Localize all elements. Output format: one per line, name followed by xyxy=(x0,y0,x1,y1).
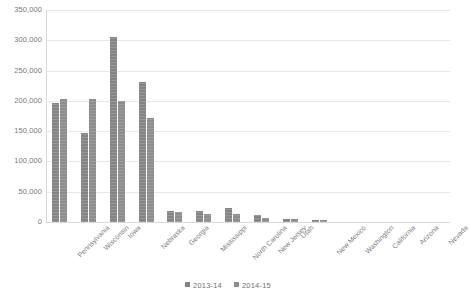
bar[interactable] xyxy=(233,214,240,222)
bar[interactable] xyxy=(175,212,182,222)
x-axis-tick-label: Mississippi xyxy=(219,224,248,253)
bar-group xyxy=(190,10,219,222)
x-axis-labels: PennsylvaniaWisconsinIowaNebraskaGeorgia… xyxy=(46,224,450,276)
bar[interactable] xyxy=(60,99,67,222)
legend-label: 2013-14 xyxy=(193,281,222,290)
bar-group xyxy=(363,10,392,222)
bar[interactable] xyxy=(204,214,211,222)
y-axis-tick-label: 200,000 xyxy=(0,96,42,105)
bar[interactable] xyxy=(320,220,327,222)
x-axis-tick-label: Nevada xyxy=(447,224,469,246)
bar-group xyxy=(75,10,104,222)
x-axis-tick-label: Washington xyxy=(364,224,395,255)
bar-group xyxy=(248,10,277,222)
y-axis-tick-label: 250,000 xyxy=(0,66,42,75)
y-axis-tick-label: 150,000 xyxy=(0,126,42,135)
legend-item[interactable]: 2013-14 xyxy=(185,280,222,290)
bar[interactable] xyxy=(196,211,203,222)
bar-group xyxy=(133,10,162,222)
bar-group xyxy=(306,10,335,222)
bar[interactable] xyxy=(254,215,261,222)
x-axis-tick-label: Arizona xyxy=(418,224,440,246)
y-axis-tick-label: 0 xyxy=(0,217,42,226)
y-axis-tick-label: 50,000 xyxy=(0,187,42,196)
bar-group xyxy=(219,10,248,222)
bar-group xyxy=(392,10,421,222)
bar[interactable] xyxy=(167,211,174,223)
bar[interactable] xyxy=(118,101,125,222)
bar-group xyxy=(161,10,190,222)
x-axis-tick-label: Iowa xyxy=(126,224,141,239)
bar[interactable] xyxy=(110,37,117,222)
legend-swatch-icon xyxy=(185,282,190,287)
y-axis-tick-label: 100,000 xyxy=(0,156,42,165)
legend-item[interactable]: 2014-15 xyxy=(234,280,271,290)
bar-group xyxy=(46,10,75,222)
x-axis-tick-label: New Mexico xyxy=(335,224,367,256)
bar[interactable] xyxy=(89,99,96,222)
x-axis-tick-label: Georgia xyxy=(187,224,210,247)
bar-group xyxy=(277,10,306,222)
bar-group xyxy=(104,10,133,222)
legend-label: 2014-15 xyxy=(242,281,271,290)
bar[interactable] xyxy=(283,219,290,222)
bar[interactable] xyxy=(139,82,146,222)
x-axis-tick-label: North Carolina xyxy=(251,224,288,261)
legend-swatch-icon xyxy=(234,282,239,287)
x-axis-tick-label: Nebraska xyxy=(160,224,186,250)
bar[interactable] xyxy=(262,218,269,222)
chart-legend: 2013-142014-15 xyxy=(0,280,456,290)
bars-layer xyxy=(46,10,450,222)
bar[interactable] xyxy=(225,208,232,222)
bar[interactable] xyxy=(81,133,88,222)
y-axis-labels: 350,000300,000250,000200,000150,000100,0… xyxy=(0,0,42,298)
bar[interactable] xyxy=(52,103,59,222)
bar[interactable] xyxy=(291,219,298,222)
bar-group xyxy=(421,10,450,222)
bar[interactable] xyxy=(147,118,154,222)
y-axis-tick-label: 350,000 xyxy=(0,5,42,14)
bar[interactable] xyxy=(312,220,319,222)
bar-group xyxy=(335,10,364,222)
y-axis-tick-label: 300,000 xyxy=(0,35,42,44)
